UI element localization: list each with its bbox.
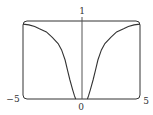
x-tick-0: 0 xyxy=(78,102,84,112)
x-tick-5: 5 xyxy=(143,96,149,106)
y-tick-1: 1 xyxy=(79,6,85,16)
function-plot: 1 −5 5 0 xyxy=(0,0,153,115)
x-tick-neg5: −5 xyxy=(6,94,20,104)
